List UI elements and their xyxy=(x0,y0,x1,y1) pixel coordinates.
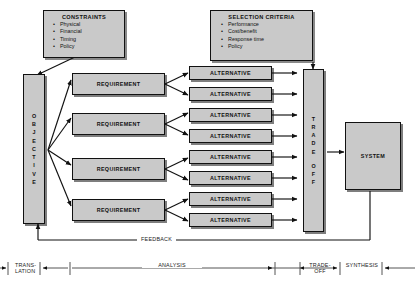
alternative-box-8: ALTERNATIVE xyxy=(189,213,272,227)
criteria-item: Policy xyxy=(215,43,308,50)
tradeoff-letter: E xyxy=(312,148,316,156)
panel-selection-criteria: SELECTION CRITERIA Performance Cost/bene… xyxy=(210,10,313,61)
arrow-constraints-to-objective xyxy=(37,57,75,75)
phase-label-analysis: ANALYSIS xyxy=(142,262,202,268)
objective-letter: O xyxy=(32,112,36,120)
constraints-item: Timing xyxy=(48,36,120,43)
alternative-label: ALTERNATIVE xyxy=(210,112,251,118)
panel-constraints: CONSTRAINTS Physical Financial Timing Po… xyxy=(43,10,125,58)
requirement-box-1: REQUIREMENT xyxy=(72,73,165,95)
alternative-box-3: ALTERNATIVE xyxy=(189,108,272,122)
alternative-box-4: ALTERNATIVE xyxy=(189,129,272,143)
phase-analysis-line1: ANALYSIS xyxy=(142,262,202,268)
arrow-req1-to-alt2 xyxy=(165,84,188,95)
arrow-req1-to-alt1 xyxy=(165,73,188,84)
objective-letter: T xyxy=(32,153,35,161)
requirement-box-3: REQUIREMENT xyxy=(72,158,165,180)
objective-bar: O B J E C T I V E xyxy=(23,74,45,224)
panel-constraints-list: Physical Financial Timing Policy xyxy=(48,21,120,51)
requirement-label: REQUIREMENT xyxy=(97,166,141,172)
phase-tradeoff-line2: OFF xyxy=(290,268,350,274)
tradeoff-letter: O xyxy=(311,162,315,170)
arrow-req3-to-alt5 xyxy=(165,158,188,169)
arrow-req4-to-alt7 xyxy=(165,199,188,210)
objective-letter: C xyxy=(32,145,36,153)
alternative-label: ALTERNATIVE xyxy=(210,133,251,139)
panel-selection-criteria-list: Performance Cost/benefit Response time P… xyxy=(215,21,308,51)
phase-translation-line2: LATION xyxy=(15,268,71,274)
objective-letter: J xyxy=(33,128,36,136)
panel-selection-criteria-title: SELECTION CRITERIA xyxy=(215,14,308,20)
objective-letter: E xyxy=(32,137,36,145)
system-label: SYSTEM xyxy=(361,153,385,159)
phase-label-synthesis: SYNTHESIS xyxy=(342,262,382,268)
objective-letter: I xyxy=(33,161,35,169)
constraints-item: Physical xyxy=(48,21,120,28)
system-box: SYSTEM xyxy=(345,122,401,190)
arrow-req3-to-alt6 xyxy=(165,169,188,180)
requirement-box-4: REQUIREMENT xyxy=(72,199,165,221)
arrow-req2-to-alt4 xyxy=(165,124,188,135)
objective-letter: E xyxy=(32,178,36,186)
objective-letter: B xyxy=(32,120,36,128)
arrow-objective-to-req-4 xyxy=(48,150,71,206)
alternative-label: ALTERNATIVE xyxy=(210,154,251,160)
constraints-item: Financial xyxy=(48,28,120,35)
tradeoff-letter: A xyxy=(312,131,316,139)
alternative-label: ALTERNATIVE xyxy=(210,175,251,181)
panel-constraints-title: CONSTRAINTS xyxy=(48,14,120,20)
alternative-box-1: ALTERNATIVE xyxy=(189,66,272,80)
tradeoff-letter: D xyxy=(312,139,316,147)
tradeoff-letter: F xyxy=(312,170,315,178)
criteria-item: Performance xyxy=(215,21,308,28)
arrow-req2-to-alt3 xyxy=(165,113,188,124)
requirement-label: REQUIREMENT xyxy=(97,81,141,87)
criteria-item: Response time xyxy=(215,36,308,43)
diagram-canvas: CONSTRAINTS Physical Financial Timing Po… xyxy=(0,0,415,285)
requirement-box-2: REQUIREMENT xyxy=(72,113,165,135)
tradeoff-bar: T R A D E O F F xyxy=(303,69,324,232)
requirement-label: REQUIREMENT xyxy=(97,207,141,213)
tradeoff-letter: R xyxy=(312,123,316,131)
criteria-item: Cost/benefit xyxy=(215,28,308,35)
alternative-box-7: ALTERNATIVE xyxy=(189,192,272,206)
phase-synthesis-line1: SYNTHESIS xyxy=(342,262,382,268)
constraints-item: Policy xyxy=(48,43,120,50)
requirement-label: REQUIREMENT xyxy=(97,121,141,127)
tradeoff-letter: F xyxy=(312,178,315,186)
alternative-label: ALTERNATIVE xyxy=(210,196,251,202)
alternative-box-5: ALTERNATIVE xyxy=(189,150,272,164)
phase-label-translation: TRANS- LATION xyxy=(12,262,71,275)
alternative-label: ALTERNATIVE xyxy=(210,70,251,76)
arrow-objective-to-req-1 xyxy=(48,80,71,150)
arrow-objective-to-req-2 xyxy=(48,118,71,150)
feedback-label: FEEDBACK xyxy=(137,236,176,242)
alternative-label: ALTERNATIVE xyxy=(210,91,251,97)
tradeoff-letter: T xyxy=(312,115,315,123)
alternative-box-6: ALTERNATIVE xyxy=(189,171,272,185)
alternative-box-2: ALTERNATIVE xyxy=(189,87,272,101)
phase-label-tradeoff: TRADE- OFF xyxy=(290,262,350,275)
objective-letter: V xyxy=(32,170,36,178)
alternative-label: ALTERNATIVE xyxy=(210,217,251,223)
arrow-req4-to-alt8 xyxy=(165,210,188,221)
